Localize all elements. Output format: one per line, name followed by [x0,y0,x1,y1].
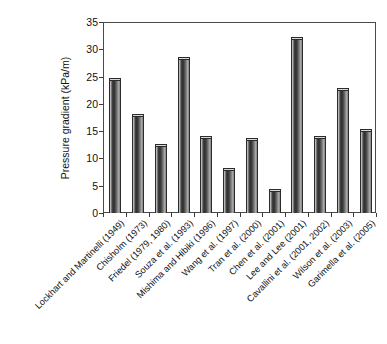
x-axis-tick-mark [217,213,218,217]
bar[interactable] [132,114,144,213]
y-axis-tick-label: 35 [76,17,98,27]
bar-chart-figure: Pressure gradient (kPa/m) 05101520253035… [0,0,387,344]
x-axis-tick-mark [353,213,354,217]
y-axis-tick-label: 10 [76,153,98,163]
y-axis-tick-label: 25 [76,72,98,82]
x-axis-tick-mark [149,213,150,217]
bar[interactable] [337,88,349,214]
x-axis-tick-marks [103,213,376,217]
bar[interactable] [178,57,190,213]
x-axis-tick-mark [376,213,377,217]
x-axis-tick-mark [194,213,195,217]
y-axis-tick-label: 15 [76,126,98,136]
bar[interactable] [360,129,372,213]
y-axis-title-text: Pressure gradient (kPa/m) [59,56,71,179]
bar[interactable] [291,37,303,213]
bar[interactable] [200,136,212,213]
bar[interactable] [223,168,235,213]
y-axis-tick-label: 30 [76,44,98,54]
x-axis-tick-mark [308,213,309,217]
bar[interactable] [109,78,121,213]
y-axis-tick-labels: 05101520253035 [76,0,98,344]
y-axis-tick-label: 20 [76,99,98,109]
x-axis-tick-mark [126,213,127,217]
y-axis-title: Pressure gradient (kPa/m) [56,22,74,213]
plot-area [103,22,376,213]
bar[interactable] [246,138,258,213]
bar[interactable] [269,189,281,213]
x-axis-tick-mark [262,213,263,217]
x-axis-tick-mark [285,213,286,217]
y-axis-tick-label: 0 [76,208,98,218]
bar[interactable] [314,136,326,213]
x-axis-tick-mark [103,213,104,217]
x-axis-tick-mark [331,213,332,217]
x-axis-tick-mark [240,213,241,217]
x-axis-tick-mark [171,213,172,217]
bar[interactable] [155,144,167,213]
y-axis-tick-label: 5 [76,181,98,191]
